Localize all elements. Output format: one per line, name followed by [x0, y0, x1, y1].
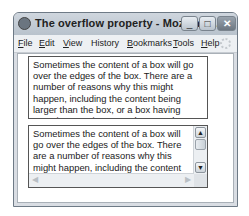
vertical-scrollbar[interactable]: ▲ ▼	[193, 126, 207, 174]
scrollbar-corner	[194, 174, 207, 187]
menu-view[interactable]: View	[63, 38, 82, 48]
hidden-box-text: Sometimes the content of a box will go o…	[29, 57, 207, 119]
menu-bookmarks[interactable]: Bookmarks	[127, 38, 172, 48]
title-bar[interactable]: The overflow property - Mozilla Fi... _ …	[14, 13, 237, 35]
menu-file[interactable]: File	[18, 38, 33, 48]
scroll-right-icon[interactable]: ▶	[185, 175, 191, 184]
menu-edit[interactable]: Edit	[39, 38, 55, 48]
throbber-icon	[220, 38, 231, 49]
maximize-button[interactable]: □	[199, 16, 216, 31]
menu-tools[interactable]: Tools	[173, 38, 194, 48]
firefox-icon	[18, 17, 31, 30]
menu-bar: File Edit View History Bookmarks Tools H…	[14, 35, 237, 53]
overflow-hidden-box: Sometimes the content of a box will go o…	[28, 56, 208, 119]
scroll-left-icon[interactable]: ◀	[32, 175, 38, 184]
minimize-button[interactable]: _	[181, 16, 198, 31]
menu-history[interactable]: History	[91, 38, 119, 48]
menu-help[interactable]: Help	[201, 38, 220, 48]
close-button[interactable]: ✕	[217, 16, 236, 31]
browser-window: The overflow property - Mozilla Fi... _ …	[13, 12, 238, 207]
scroll-down-icon[interactable]: ▼	[195, 162, 206, 173]
page-content: Sometimes the content of a box will go o…	[17, 53, 234, 203]
overflow-scroll-box[interactable]: Sometimes the content of a box will go o…	[28, 125, 208, 188]
scroll-thumb[interactable]	[195, 139, 206, 150]
horizontal-scrollbar[interactable]: ◀ ▶	[29, 173, 194, 187]
scroll-up-icon[interactable]: ▲	[195, 127, 206, 138]
